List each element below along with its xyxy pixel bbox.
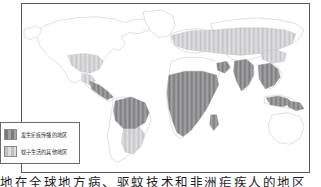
greenland-outline bbox=[143, 10, 175, 38]
region-south-america-south bbox=[121, 127, 145, 155]
legend-label-transmission: 发生疟疾传播的地区 bbox=[21, 132, 67, 138]
malaria-world-map-figure: 发生疟疾传播的地区 蚊子生活的其他地区 地在全球地方病、驱蚊技术和非洲疟疾人的地… bbox=[0, 0, 321, 187]
region-east-china bbox=[260, 49, 286, 63]
region-madagascar bbox=[210, 115, 219, 131]
legend-item-transmission: 发生疟疾传播的地区 bbox=[4, 127, 76, 142]
legend-box: 发生疟疾传播的地区 蚊子生活的其他地区 bbox=[0, 122, 80, 164]
region-papua-new-guinea bbox=[288, 101, 304, 111]
figure-caption: 地在全球地方病、驱蚊技术和非洲疟疾人的地区 bbox=[0, 176, 321, 187]
legend-item-mosquito: 蚊子生活的其他地区 bbox=[4, 144, 76, 159]
australia-outline bbox=[268, 113, 304, 145]
north-america-outline bbox=[36, 17, 153, 83]
legend-swatch-dark-icon bbox=[4, 129, 17, 140]
legend-swatch-light-icon bbox=[4, 146, 17, 157]
legend-label-mosquito: 蚊子生活的其他地区 bbox=[21, 149, 67, 155]
region-india bbox=[234, 59, 254, 91]
